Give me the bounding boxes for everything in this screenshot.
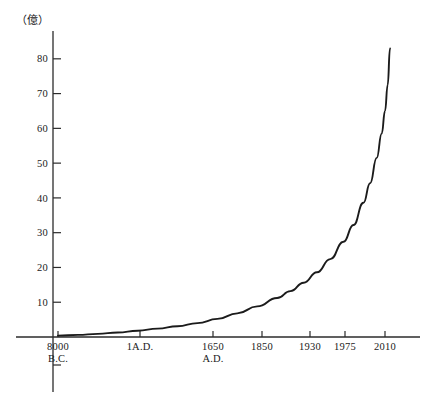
x-axis-tick-label: 2010 xyxy=(374,341,396,352)
y-axis-tick-label: 30 xyxy=(37,227,48,238)
x-axis-tick-label: 1650 xyxy=(202,341,224,352)
y-axis-tick-label: 80 xyxy=(37,53,48,64)
y-axis-tick-label: 10 xyxy=(37,297,48,308)
x-axis-tick-label: 8000 xyxy=(47,341,69,352)
x-axis-tick-label: 1A.D. xyxy=(127,341,154,352)
y-axis-tick-label: 40 xyxy=(37,193,48,204)
y-axis-tick-label: 20 xyxy=(37,262,48,273)
x-axis-tick-label: 1850 xyxy=(251,341,273,352)
y-axis-tick-label: 60 xyxy=(37,123,48,134)
population-curve xyxy=(58,48,390,335)
chart-svg: （億） 1020304050607080 8000B.C.1A.D.1650A.… xyxy=(0,0,422,400)
x-axis-tick-label: 1975 xyxy=(334,341,356,352)
y-axis-tick-label: 70 xyxy=(37,88,48,99)
y-axis-tick-label: 50 xyxy=(37,158,48,169)
x-axis-ticks: 8000B.C.1A.D.1650A.D.1850193019752010 xyxy=(47,331,396,364)
x-axis-tick-sublabel: B.C. xyxy=(48,353,68,364)
x-axis-tick-label: 1930 xyxy=(299,341,321,352)
population-growth-chart: （億） 1020304050607080 8000B.C.1A.D.1650A.… xyxy=(0,0,422,400)
x-axis-tick-sublabel: A.D. xyxy=(202,353,223,364)
y-axis-unit-label: （億） xyxy=(16,14,49,26)
y-axis-ticks: 1020304050607080 xyxy=(37,53,61,307)
